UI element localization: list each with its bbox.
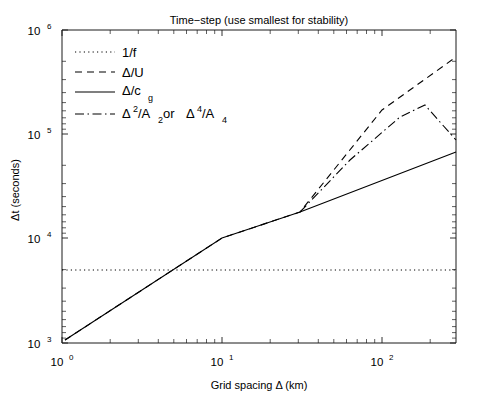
legend-entry-inverse-f[interactable]: 1/f <box>75 45 137 60</box>
x-tick-label-1e0-base: 10 <box>51 356 64 368</box>
legend-entry-delta-over-cg[interactable]: Δ/c g <box>75 83 153 103</box>
legend-entry-diffusive-limit[interactable]: Δ 2 /A 2 or Δ 4 /A 4 <box>75 104 227 125</box>
x-axis-label: Grid spacing Δ (km) <box>211 379 308 391</box>
legend-label-delta-over-cg-subscript: g <box>148 93 153 103</box>
x-tick-label-1e0-exp: 0 <box>69 353 74 362</box>
x-tick-label-1e1-exp: 1 <box>229 353 234 362</box>
time-step-log-log-plot: Time−step (use smallest for stability) <box>0 0 482 413</box>
x-tick-label-1e2-base: 10 <box>371 356 384 368</box>
y-tick-label-1e4-base: 10 <box>28 233 41 245</box>
legend-entry-delta-over-U[interactable]: Δ/U <box>75 65 144 80</box>
chart-title: Time−step (use smallest for stability) <box>170 14 348 26</box>
y-axis-minor-ticks <box>62 61 456 338</box>
legend-label-inverse-f: 1/f <box>122 45 137 60</box>
legend-label-diffusive-delta-2: Δ <box>186 106 195 121</box>
legend-label-diffusive-mid-1: /A <box>138 106 151 121</box>
y-tick-label-1e5-base: 10 <box>28 129 41 141</box>
y-tick-label-1e3-base: 10 <box>28 338 41 350</box>
legend-label-diffusive-delta-1: Δ <box>122 106 131 121</box>
series-diffusive-limit <box>300 105 456 212</box>
y-tick-label-1e6-exp: 6 <box>47 22 52 31</box>
series-delta-over-cg <box>65 152 456 340</box>
x-tick-label-1e2-exp: 2 <box>389 353 394 362</box>
legend-label-diffusive-mid-2: /A <box>202 106 215 121</box>
y-tick-label-1e4-exp: 4 <box>47 230 52 239</box>
legend-label-diffusive-conjunction: or <box>163 106 175 121</box>
legend-label-delta-over-U: Δ/U <box>122 65 144 80</box>
y-tick-label-1e3-exp: 3 <box>47 335 52 344</box>
y-axis-label: Δt (seconds) <box>9 159 21 221</box>
y-axis-tick-labels: 10 6 10 5 10 4 10 3 <box>28 22 52 350</box>
series-delta-over-U <box>65 57 456 340</box>
legend-label-delta-over-cg: Δ/c <box>122 83 141 98</box>
x-tick-label-1e1-base: 10 <box>211 356 224 368</box>
x-axis-major-ticks <box>62 30 382 343</box>
chart-legend: 1/f Δ/U Δ/c g Δ 2 /A 2 or Δ <box>75 45 227 125</box>
x-axis-tick-labels: 10 0 10 1 10 2 <box>51 353 394 368</box>
y-tick-label-1e5-exp: 5 <box>47 126 52 135</box>
x-axis-minor-ticks <box>110 30 430 343</box>
legend-label-diffusive-sub-2: 4 <box>222 115 227 125</box>
y-tick-label-1e6-base: 10 <box>28 25 41 37</box>
chart-figure: Time−step (use smallest for stability) <box>0 0 482 413</box>
